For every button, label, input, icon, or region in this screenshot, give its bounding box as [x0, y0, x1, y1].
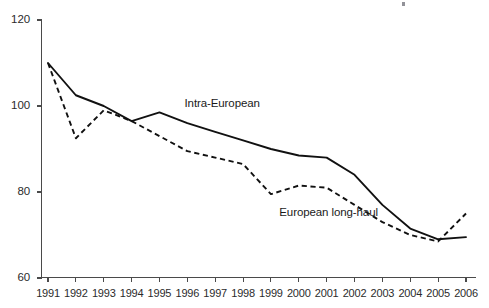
chart-plot-area [0, 0, 489, 308]
data-series-group [48, 63, 466, 241]
y-axis-ticks [37, 20, 42, 278]
x-axis-ticks [48, 278, 466, 283]
series-line-intra-european [48, 63, 466, 239]
series-line-european-long-haul [48, 63, 466, 241]
y-tick-label: 80 [4, 186, 30, 198]
axes-group [37, 20, 477, 282]
y-tick-label: 100 [4, 100, 30, 112]
y-tick-label: 120 [4, 14, 30, 26]
x-tick-label: 2006 [446, 288, 486, 299]
chart-container: 6080100120 19911992199319941995199619971… [0, 0, 489, 308]
series-label-european-long-haul: European long-haul [279, 207, 378, 219]
y-tick-label: 60 [4, 272, 30, 284]
series-label-intra-european: Intra-European [185, 98, 260, 110]
